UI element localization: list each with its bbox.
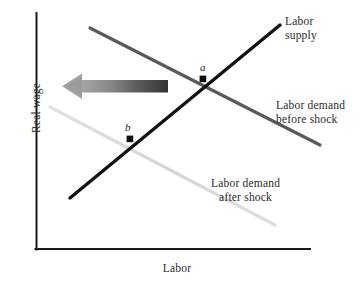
labor-demand-before-shock-label: Labor demand before shock — [276, 98, 345, 127]
y-axis-label: Real wage — [30, 68, 42, 148]
point-a-label: a — [200, 61, 206, 73]
point-b-marker — [127, 136, 134, 143]
labor-supply-label-line1: Labor — [285, 14, 317, 28]
demand-after-label-line2: after shock — [211, 190, 280, 204]
demand-before-label-line2: before shock — [276, 112, 345, 126]
labor-supply-label-line2: supply — [285, 28, 317, 42]
labor-supply-label: Labor supply — [285, 14, 317, 43]
labor-demand-after-shock-line — [50, 107, 275, 225]
labor-demand-after-shock-label: Labor demand after shock — [211, 176, 280, 205]
demand-after-label-line1: Labor demand — [211, 176, 280, 190]
demand-before-label-line1: Labor demand — [276, 98, 345, 112]
labor-market-diagram: a b Labor supply Labor demand before sho… — [0, 0, 361, 283]
leftward-shift-arrow — [62, 74, 168, 100]
x-axis-label: Labor — [147, 261, 207, 275]
point-b-label: b — [125, 121, 131, 133]
point-a-marker — [200, 76, 207, 83]
